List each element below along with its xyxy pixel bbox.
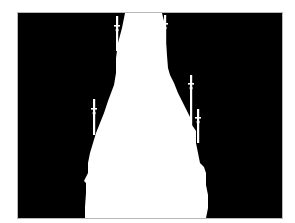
image-canvas (0, 0, 295, 223)
segmentation-mask-frame (18, 13, 282, 218)
tower-silhouette-svg (18, 13, 282, 218)
